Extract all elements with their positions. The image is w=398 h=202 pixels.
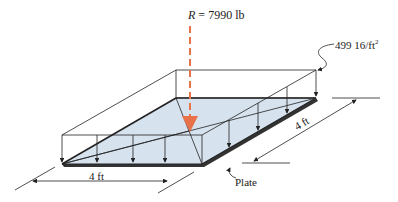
resultant-label: R = 7990 lb <box>188 8 244 23</box>
diagram-canvas: R = 7990 lb 499 16/ft2 4 ft 4 ft Plate <box>0 0 398 202</box>
dimension-bottom-label: 4 ft <box>89 170 104 182</box>
dimension-bottom <box>15 167 194 193</box>
plate-load-diagram <box>0 0 398 202</box>
load-leader <box>318 44 334 70</box>
plate-label: Plate <box>235 176 257 188</box>
distributed-load-label: 499 16/ft2 <box>335 38 379 51</box>
